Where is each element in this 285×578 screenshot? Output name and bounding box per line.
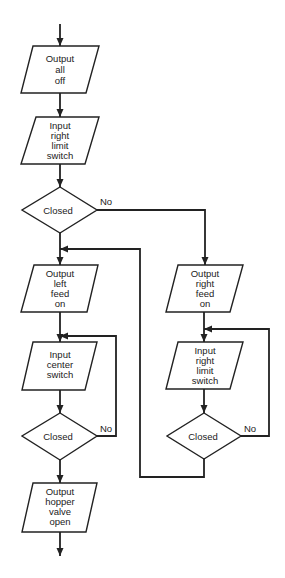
arrow-icon <box>57 38 64 46</box>
node-input-center-switch: Input center switch <box>22 342 97 390</box>
svg-text:Closed: Closed <box>188 431 218 442</box>
node-output-hopper-valve-open: Output hopper valve open <box>22 483 97 532</box>
svg-text:off: off <box>55 75 66 86</box>
svg-text:Closed: Closed <box>43 431 73 442</box>
no-label: No <box>100 196 112 207</box>
svg-text:on: on <box>200 298 211 309</box>
flowchart: Output all off Input right limit switch … <box>0 0 285 578</box>
arrow-icon <box>60 246 68 253</box>
arrow-icon <box>57 405 64 413</box>
no-label: No <box>100 423 112 434</box>
node-input-right-limit-switch-2: Input right limit switch <box>166 342 243 389</box>
arrow-icon <box>57 475 64 483</box>
arrow-icon <box>57 109 64 117</box>
svg-text:all: all <box>55 64 65 75</box>
arrow-icon <box>202 257 209 265</box>
svg-text:switch: switch <box>47 369 73 380</box>
connector-d1-r1-no <box>97 210 205 265</box>
svg-text:open: open <box>49 516 70 527</box>
svg-text:Closed: Closed <box>43 205 73 216</box>
arrow-icon <box>57 548 64 556</box>
svg-text:on: on <box>55 298 66 309</box>
svg-text:switch: switch <box>47 150 73 161</box>
node-output-right-feed-on: Output right feed on <box>166 265 243 312</box>
node-input-right-limit-switch: Input right limit switch <box>21 117 99 164</box>
no-label: No <box>244 423 256 434</box>
arrow-icon <box>201 334 208 342</box>
arrow-icon <box>204 326 212 333</box>
arrow-icon <box>57 257 64 265</box>
svg-text:Output: Output <box>46 53 75 64</box>
node-output-left-feed-on: Output left feed on <box>21 265 98 312</box>
node-output-all-off: Output all off <box>21 46 99 93</box>
svg-text:switch: switch <box>192 375 218 386</box>
arrow-icon <box>57 179 64 187</box>
arrow-icon <box>201 405 208 413</box>
